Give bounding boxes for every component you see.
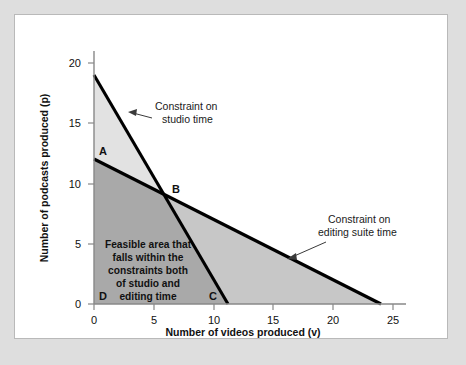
figure-page: 0 5 10 15 20 0 5 10 15 20 25 Number of v…: [0, 0, 466, 365]
vertex-label-b: B: [172, 183, 180, 195]
x-tick-label-15: 15: [267, 314, 279, 326]
y-axis-title: Number of podcasts produced (p): [38, 94, 50, 263]
feasible-area-label-line5: editing time: [119, 291, 176, 302]
x-tick-label-20: 20: [327, 314, 339, 326]
vertex-label-d: D: [99, 290, 107, 302]
studio-constraint-annotation-line2: studio time: [162, 113, 213, 125]
studio-constraint-annotation-line1: Constraint on: [155, 100, 218, 112]
vertex-label-c: C: [209, 290, 217, 302]
feasible-area-label-line4: of studio and: [116, 278, 180, 289]
y-tick-label-10: 10: [69, 178, 81, 190]
y-tick-label-5: 5: [75, 238, 81, 250]
constraint-chart: 0 5 10 15 20 0 5 10 15 20 25 Number of v…: [15, 15, 447, 338]
feasible-area-label-line2: falls within the: [113, 252, 184, 263]
y-tick-label-20: 20: [69, 57, 81, 69]
y-tick-label-0: 0: [75, 298, 81, 310]
x-tick-label-5: 5: [151, 314, 157, 326]
editing-constraint-annotation-line1: Constraint on: [328, 213, 391, 225]
x-tick-label-0: 0: [91, 314, 97, 326]
vertex-label-a: A: [99, 145, 107, 157]
feasible-area-label-line1: Feasible area that: [105, 239, 192, 250]
x-tick-label-10: 10: [208, 314, 220, 326]
x-tick-label-25: 25: [387, 314, 399, 326]
y-tick-label-15: 15: [69, 117, 81, 129]
editing-annotation-leader: [292, 242, 326, 257]
x-axis-title: Number of videos produced (v): [165, 326, 320, 338]
studio-annotation-arrow-icon: [128, 109, 137, 116]
feasible-area-label-line3: constraints both: [108, 265, 188, 276]
chart-panel: 0 5 10 15 20 0 5 10 15 20 25 Number of v…: [14, 14, 448, 339]
editing-constraint-annotation-line2: editing suite time: [318, 226, 397, 238]
